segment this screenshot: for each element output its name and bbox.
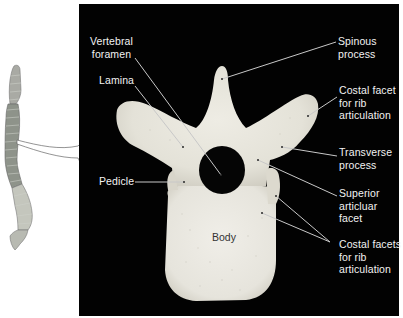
label-superior-articular-facet: Superior articluar facet xyxy=(339,187,380,225)
label-transverse-process: Transverse process xyxy=(339,146,392,171)
leader-transverse-process xyxy=(282,147,337,156)
label-vertebral-foramen: Vertebral foramen xyxy=(90,35,133,60)
label-pedicle: Pedicle xyxy=(99,175,134,188)
label-lamina: Lamina xyxy=(99,74,134,87)
label-spinous-process: Spinous process xyxy=(338,35,377,60)
label-body: Body xyxy=(212,231,236,243)
vertebral-body xyxy=(165,186,276,301)
figure: Vertebral foramen Lamina Pedicle Spinous… xyxy=(0,0,403,318)
leader-costal-facets-1 xyxy=(276,196,330,242)
label-costal-facets: Costal facets for rib articulation xyxy=(339,238,401,276)
superior-articular-facet-shape xyxy=(266,168,280,204)
label-costal-facet: Costal facet for rib articulation xyxy=(339,84,396,122)
vertebral-foramen-hole xyxy=(199,146,245,194)
leader-spinous-process xyxy=(222,42,336,79)
